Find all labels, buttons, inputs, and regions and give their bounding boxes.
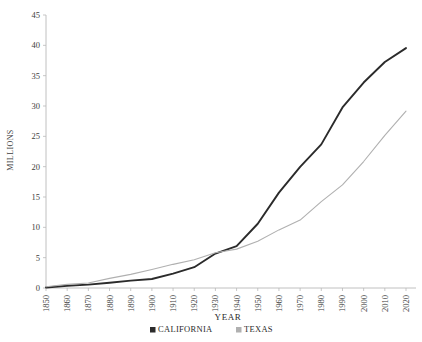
y-tick-label: 10 xyxy=(32,222,41,232)
y-tick-label: 30 xyxy=(32,101,41,111)
legend-swatch-california xyxy=(150,327,156,333)
y-tick-label: 35 xyxy=(32,71,41,81)
x-tick-label: 1940 xyxy=(232,295,242,312)
y-tick-label: 25 xyxy=(32,131,41,141)
x-tick-label: 1910 xyxy=(168,295,178,312)
x-tick-label: 1990 xyxy=(337,295,347,312)
chart-canvas: 051015202530354045 185018601870188018901… xyxy=(0,0,422,342)
x-tick-label: 1960 xyxy=(274,295,284,312)
x-tick-label: 2020 xyxy=(401,295,411,312)
x-tick-label: 2010 xyxy=(380,295,390,312)
x-axis-title: YEAR xyxy=(215,312,242,322)
x-tick-label: 1870 xyxy=(83,295,93,312)
series-line-california xyxy=(46,48,406,287)
x-tick-label: 1950 xyxy=(253,295,263,312)
x-tick-label: 1890 xyxy=(126,295,136,312)
x-tick-label: 1920 xyxy=(189,295,199,312)
y-axis-title: MILLIONS xyxy=(6,129,15,170)
series-line-texas xyxy=(46,111,406,287)
x-tick-label: 1970 xyxy=(295,295,305,312)
y-tick-label: 45 xyxy=(32,10,41,20)
y-tick-label: 20 xyxy=(32,162,41,172)
line-chart: 051015202530354045 185018601870188018901… xyxy=(0,0,422,342)
y-tick-label: 15 xyxy=(32,192,41,202)
x-axis: 1850186018701880189019001910192019301940… xyxy=(41,288,416,312)
chart-legend: CALIFORNIATEXAS xyxy=(150,324,273,334)
x-tick-label: 1850 xyxy=(41,295,51,312)
y-tick-label: 40 xyxy=(32,40,41,50)
x-tick-label: 2000 xyxy=(359,295,369,312)
x-tick-label: 1860 xyxy=(62,295,72,312)
x-tick-label: 1980 xyxy=(316,295,326,312)
legend-label-california: CALIFORNIA xyxy=(158,324,213,334)
x-tick-label: 1880 xyxy=(105,295,115,312)
y-axis: 051015202530354045 xyxy=(32,10,47,293)
x-tick-label: 1900 xyxy=(147,295,157,312)
x-tick-label: 1930 xyxy=(210,295,220,312)
legend-label-texas: TEXAS xyxy=(244,324,273,334)
y-tick-label: 5 xyxy=(36,253,40,263)
legend-swatch-texas xyxy=(236,327,242,333)
y-tick-label: 0 xyxy=(36,283,40,293)
series-lines xyxy=(46,48,406,287)
